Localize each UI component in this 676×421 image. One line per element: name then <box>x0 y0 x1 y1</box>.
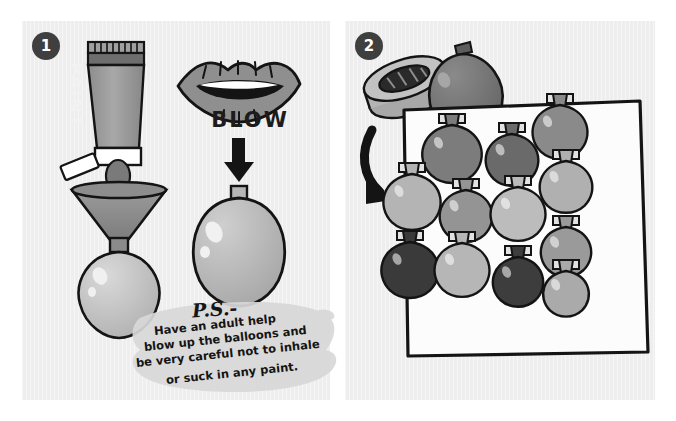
board-balloon <box>381 231 438 298</box>
illustration-canvas: 1 <box>0 0 676 421</box>
ps-note: P.S.- Have an adult help blow up the bal… <box>130 296 320 396</box>
board-balloon <box>435 232 490 297</box>
step-number-badge-1: 1 <box>32 32 60 60</box>
board-balloon-layer <box>0 0 676 421</box>
board-balloon <box>422 114 482 183</box>
blow-caption: BLOW <box>195 108 305 132</box>
step-number-badge-2: 2 <box>355 32 383 60</box>
board-balloon <box>493 246 543 307</box>
board-balloon <box>540 150 593 213</box>
board-balloon <box>491 176 546 241</box>
paint-tube-label: PAINT <box>66 62 86 128</box>
